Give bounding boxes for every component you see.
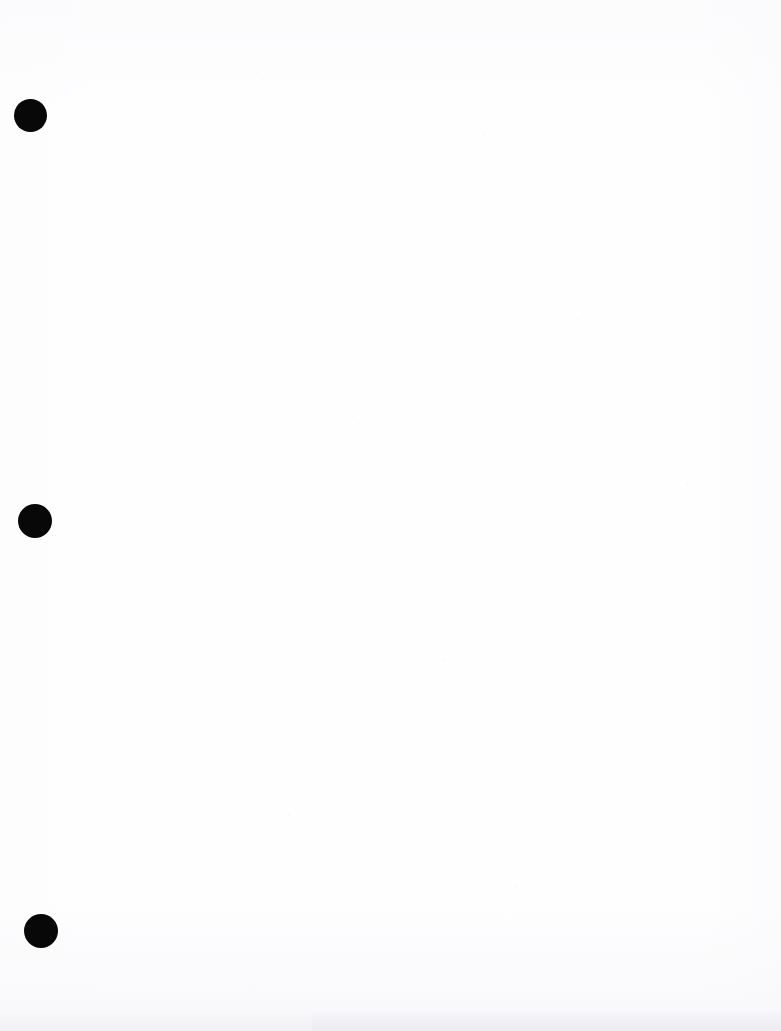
- hole-punch-bottom-icon: [24, 914, 58, 948]
- scanned-page: [0, 0, 781, 1031]
- hole-punch-top-icon: [14, 99, 47, 132]
- scan-noise-overlay: [0, 0, 781, 1031]
- scan-bottom-edge-shading: [0, 995, 781, 1031]
- hole-punch-middle-icon: [18, 504, 52, 538]
